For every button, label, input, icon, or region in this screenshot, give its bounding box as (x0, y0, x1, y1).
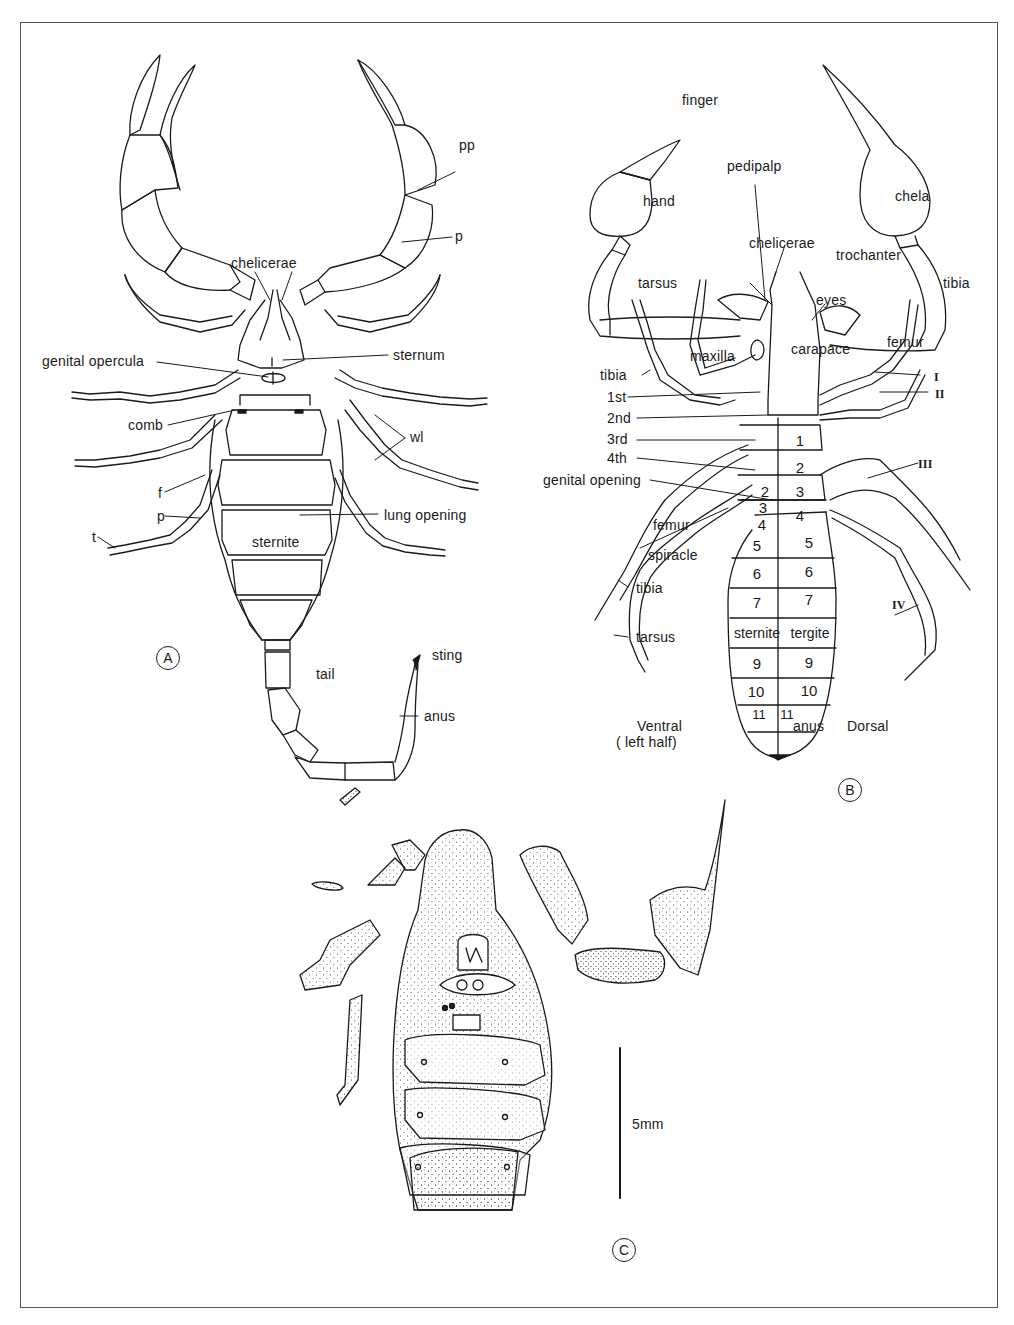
ventral-segment: 5 (737, 538, 777, 553)
label-tarsus-lower: tarsus (636, 630, 675, 644)
label-p-leg: p (157, 509, 165, 523)
label-chela: chela (895, 189, 929, 203)
label-hand: hand (643, 194, 675, 208)
anatomy-illustration (0, 0, 1014, 1325)
label-comb: comb (128, 418, 163, 432)
ventral-segment: 10 (736, 684, 776, 699)
label-tibia-left: tibia (600, 368, 627, 382)
ventral-segment: 2 (745, 484, 785, 499)
label-carapace: carapace (791, 342, 850, 356)
dorsal-segment: 9 (789, 655, 829, 670)
label-tarsus-upper: tarsus (638, 276, 677, 290)
label-f: f (158, 486, 162, 500)
label-4th: 4th (607, 451, 627, 465)
label-leg-iv: IV (892, 598, 906, 612)
ventral-segment: 4 (742, 517, 782, 532)
dorsal-segment: 4 (780, 508, 820, 523)
label-finger: finger (682, 93, 718, 107)
dorsal-segment: 10 (789, 683, 829, 698)
label-anus-a: anus (424, 709, 455, 723)
label-1st: 1st (607, 390, 626, 404)
dorsal-segment: 7 (789, 592, 829, 607)
label-sting: sting (432, 648, 463, 662)
label-eyes: eyes (816, 293, 846, 307)
ventral-segment: 3 (743, 500, 783, 515)
label-anus-b: anus (793, 719, 824, 733)
label-sternum: sternum (393, 348, 445, 362)
ventral-segment: 9 (737, 656, 777, 671)
ventral-segment: 7 (737, 595, 777, 610)
dorsal-segment: 6 (789, 564, 829, 579)
label-left-half: ( left half) (616, 735, 677, 749)
label-2nd: 2nd (607, 411, 631, 425)
label-femur-left: femur (653, 518, 690, 532)
dorsal-segment: 5 (789, 535, 829, 550)
label-spiracle: spiracle (648, 548, 698, 562)
leader-lines-a (98, 172, 455, 716)
panel-label-a: A (156, 646, 180, 670)
label-p-pedipalp: p (455, 229, 463, 243)
label-femur-right: femur (887, 335, 924, 349)
label-lung-opening: lung opening (384, 508, 467, 522)
label-sternite-a: sternite (252, 535, 300, 549)
label-tibia-right: tibia (943, 276, 970, 290)
scale-bar-label: 5mm (632, 1117, 664, 1131)
label-maxilla: maxilla (690, 349, 735, 363)
fossil-specimen-drawing (300, 788, 725, 1210)
ventral-segment-sternite: sternite (727, 626, 787, 641)
label-tibia-lower: tibia (636, 581, 663, 595)
dorsal-segment: 3 (780, 484, 820, 499)
ventral-segment: 6 (737, 566, 777, 581)
label-chelicerae-a: chelicerae (231, 256, 297, 270)
panel-label-b: B (838, 778, 862, 802)
label-leg-ii: II (935, 387, 945, 401)
label-ventral: Ventral (637, 719, 682, 733)
ventral-segment: 11 (744, 707, 774, 722)
label-t: t (92, 530, 96, 544)
dorsal-segment: 1 (780, 433, 820, 448)
label-leg-iii: III (918, 457, 933, 471)
dorsal-segment-tergite: tergite (780, 626, 840, 641)
label-trochanter: trochanter (836, 248, 901, 262)
panel-label-c: C (612, 1238, 636, 1262)
label-dorsal: Dorsal (847, 719, 889, 733)
label-pedipalp: pedipalp (727, 159, 782, 173)
label-chelicerae-b: chelicerae (749, 236, 815, 250)
label-genital-opening: genital opening (543, 473, 641, 487)
label-wl: wl (410, 430, 424, 444)
label-pp: pp (459, 138, 475, 152)
label-leg-i: I (934, 370, 939, 384)
label-genital-opercula: genital opercula (42, 354, 144, 368)
label-tail: tail (316, 667, 335, 681)
dorsal-segment: 2 (780, 460, 820, 475)
label-3rd: 3rd (607, 432, 628, 446)
